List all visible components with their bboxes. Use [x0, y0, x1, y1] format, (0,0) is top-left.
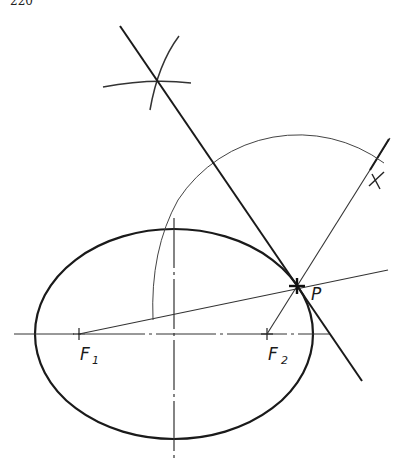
- line-x-extension: [370, 139, 389, 170]
- tangent-line: [120, 26, 362, 381]
- label-f1-subscript: 1: [92, 354, 99, 367]
- label-f2: F: [268, 344, 278, 364]
- ellipse-diagram: P F 1 F 2: [0, 0, 410, 467]
- point-p-marker: [289, 278, 305, 294]
- label-f2-subscript: 2: [281, 354, 288, 367]
- bisector-arc-vertical: [150, 36, 179, 110]
- label-f1: F: [80, 344, 90, 364]
- bisector-arc-horizontal: [103, 81, 191, 87]
- point-x-marker: [369, 172, 384, 189]
- arc-radius-px: [153, 135, 384, 320]
- label-p: P: [311, 284, 322, 304]
- line-f1-to-p: [79, 270, 388, 334]
